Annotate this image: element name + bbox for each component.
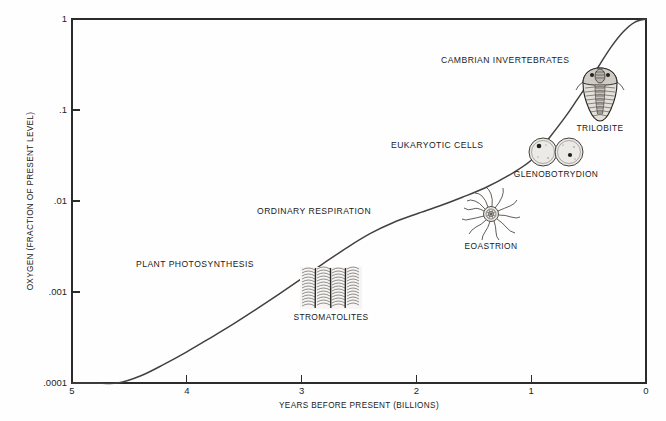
oxygen-history-figure: 1 .1 .01 .001 .0001 OXYGEN (FRACTION OF … [0,0,666,421]
y-tick-label-4: .001 [49,286,68,297]
y-tick-label-5: .0001 [43,377,67,388]
x-tick-label-3: 3 [299,385,304,396]
x-tick-label-4: 2 [414,385,419,396]
plot-frame [72,19,646,383]
trilobite-caption: TRILOBITE [577,123,624,133]
glenobotrydion-caption: GLENOBOTRYDION [514,169,599,179]
annotations-group: PLANT PHOTOSYNTHESIS ORDINARY RESPIRATIO… [136,55,569,269]
y-axis-tick-labels: 1 .1 .01 .001 .0001 [43,13,67,388]
annotation-cambrian-invertebrates: CAMBRIAN INVERTEBRATES [441,55,569,65]
annotation-plant-photosynthesis: PLANT PHOTOSYNTHESIS [136,259,254,269]
y-tick-label-3: .01 [54,195,67,206]
y-axis-ticks [72,19,80,383]
eoastrion-caption: EOASTRION [465,241,518,251]
y-tick-label-1: 1 [62,13,67,24]
x-tick-label-1: 5 [69,385,74,396]
x-tick-label-2: 4 [184,385,189,396]
eoastrion-illustration: EOASTRION [462,187,520,251]
x-axis-tick-labels: 5 4 3 2 1 0 [69,385,648,396]
glenobotrydion-illustration: GLENOBOTRYDION [514,138,599,179]
annotation-ordinary-respiration: ORDINARY RESPIRATION [257,206,371,216]
stromatolites-caption: STROMATOLITES [293,312,368,322]
y-axis-title-group: OXYGEN (FRACTION OF PRESENT LEVEL) [26,112,35,291]
x-tick-label-5: 1 [529,385,534,396]
x-axis-title: YEARS BEFORE PRESENT (BILLIONS) [279,401,439,410]
oxygen-curve [72,19,646,384]
y-tick-label-2: .1 [59,104,67,115]
chart-canvas: 1 .1 .01 .001 .0001 OXYGEN (FRACTION OF … [0,0,666,421]
y-axis-title: OXYGEN (FRACTION OF PRESENT LEVEL) [26,112,35,291]
stromatolites-illustration: STROMATOLITES [293,267,368,322]
x-tick-label-6: 0 [643,385,648,396]
x-axis-ticks [72,375,646,383]
trilobite-illustration: TRILOBITE [576,68,624,133]
annotation-eukaryotic-cells: EUKARYOTIC CELLS [391,140,484,150]
